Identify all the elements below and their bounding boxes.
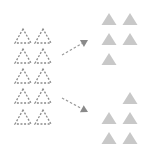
dashed-triangle [35, 69, 51, 83]
dashed-triangle [35, 29, 51, 43]
arrows [62, 40, 88, 112]
dashed-triangle [15, 110, 31, 124]
filled-triangle [123, 92, 138, 104]
dashed-arrow-line [62, 98, 82, 109]
arrowhead-icon [80, 105, 88, 112]
dashed-triangle [35, 89, 51, 103]
split-diagram [0, 0, 151, 149]
filled-triangle [102, 53, 117, 65]
filled-triangle [123, 132, 138, 144]
dashed-triangle [15, 69, 31, 83]
dashed-triangle [15, 49, 31, 63]
dashed-triangle [15, 29, 31, 43]
dashed-arrow-line [62, 43, 82, 55]
target-group-top [102, 13, 138, 65]
source-triangles [15, 29, 51, 124]
filled-triangle [123, 13, 138, 25]
filled-triangle [102, 13, 117, 25]
filled-triangle [123, 112, 138, 124]
filled-triangle [102, 112, 117, 124]
filled-triangle [102, 33, 117, 45]
dashed-triangle [35, 110, 51, 124]
arrowhead-icon [80, 40, 88, 47]
filled-triangle [102, 132, 117, 144]
diagram-canvas [0, 0, 151, 149]
dashed-triangle [35, 49, 51, 63]
filled-triangle [123, 33, 138, 45]
dashed-triangle [15, 89, 31, 103]
target-group-bottom [102, 92, 138, 144]
